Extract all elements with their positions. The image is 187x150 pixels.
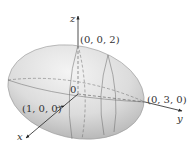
z-axis-label: z [70, 14, 75, 24]
y-intercept-label: (0, 3, 0) [147, 95, 187, 105]
y-axis-label: y [177, 114, 183, 124]
x-intercept-label: (1, 0, 0) [22, 104, 62, 114]
z-intercept-label: (0, 0, 2) [80, 35, 120, 45]
ellipsoid-diagram: z (0, 0, 2) 0 (1, 0, 0) (0, 3, 0) y x [0, 0, 187, 150]
origin-label: 0 [70, 85, 76, 95]
ellipsoid-graphic [0, 0, 187, 150]
x-axis-label: x [17, 132, 23, 142]
